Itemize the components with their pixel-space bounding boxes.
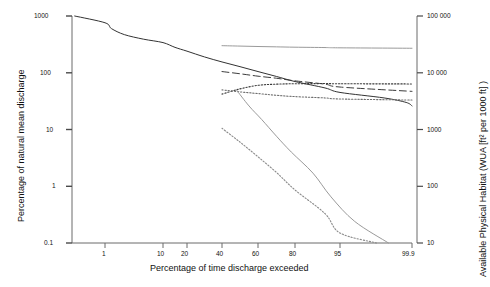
- ytick-label-1: 100: [40, 69, 51, 76]
- chart-canvas: [0, 0, 490, 287]
- bottom-axis: [72, 243, 412, 248]
- series-habitat-curve-steep-dotted: [222, 128, 377, 243]
- left-axis: [66, 16, 72, 243]
- y2tick-label-4: 10: [427, 239, 434, 246]
- y2tick-label-3: 100: [427, 182, 438, 189]
- xtick-label-4: 60: [252, 250, 259, 257]
- y2-axis-title: Available Physical Habitat (WUA [ft² per…: [478, 81, 488, 277]
- xtick-label-5: 80: [289, 250, 296, 257]
- series-habitat-curve-dotted-falling: [222, 90, 412, 100]
- xtick-label-1: 10: [157, 250, 164, 257]
- y2tick-label-2: 1000: [427, 126, 441, 133]
- ytick-label-2: 10: [46, 126, 53, 133]
- y2tick-label-0: 100 000: [427, 12, 451, 19]
- ytick-label-0: 1000: [34, 12, 48, 19]
- xtick-label-2: 20: [181, 250, 188, 257]
- series-layer: [75, 16, 412, 243]
- xtick-label-7: 99.9: [402, 250, 415, 257]
- series-habitat-curve-steep-solid: [236, 90, 388, 243]
- xtick-label-6: 95: [334, 250, 341, 257]
- xtick-label-0: 1: [102, 250, 106, 257]
- x-axis-title: Percentage of time discharge exceeded: [150, 263, 309, 273]
- right-axis: [417, 16, 423, 243]
- ytick-label-4: 0.1: [44, 239, 53, 246]
- series-habitat-curve-flat-top: [222, 46, 412, 49]
- ytick-label-3: 1: [52, 182, 56, 189]
- y2tick-label-1: 10 000: [427, 69, 447, 76]
- series-habitat-curve-dashed: [222, 72, 412, 92]
- chart-figure: 1000 100 10 1 0.1 100 000 10 000 1000 10…: [0, 0, 490, 287]
- y-axis-title: Percentage of natural mean discharge: [16, 69, 26, 222]
- xtick-label-3: 40: [216, 250, 223, 257]
